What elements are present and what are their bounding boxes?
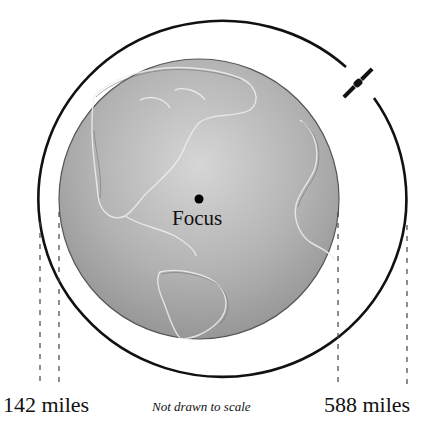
orbit-diagram: Focus 142 miles Not drawn to scale 588 m… xyxy=(0,0,426,428)
satellite-icon xyxy=(341,66,374,99)
apogee-distance-label: 588 miles xyxy=(324,392,410,418)
focus-label: Focus xyxy=(172,206,222,231)
focus-point xyxy=(195,195,204,204)
perigee-distance-label: 142 miles xyxy=(3,392,89,418)
scale-note: Not drawn to scale xyxy=(152,399,251,415)
